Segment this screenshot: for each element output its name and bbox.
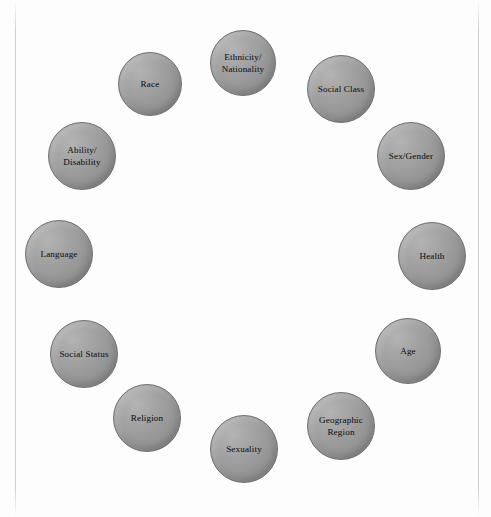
identity-node-label: Social Class	[315, 83, 368, 95]
identity-node-label: Religion	[128, 412, 167, 424]
bottom-dotted-rule	[12, 502, 478, 507]
identity-node-race[interactable]: Race	[118, 52, 182, 116]
identity-node-social-class[interactable]: Social Class	[307, 55, 375, 123]
identity-node-sexuality[interactable]: Sexuality	[210, 415, 278, 483]
identity-node-social-status[interactable]: Social Status	[50, 320, 118, 388]
identity-node-sex-gender[interactable]: Sex/Gender	[377, 122, 445, 190]
identity-node-label: Age	[397, 345, 419, 357]
identity-node-label: Language	[37, 248, 80, 260]
identity-node-age[interactable]: Age	[375, 318, 441, 384]
identity-node-health[interactable]: Health	[398, 222, 466, 290]
identity-node-geographic-region[interactable]: Geographic Region	[307, 392, 375, 460]
identity-node-ability-disability[interactable]: Ability/ Disability	[48, 122, 116, 190]
identity-node-language[interactable]: Language	[25, 220, 93, 288]
diagram-canvas: Ethnicity/ NationalitySocial ClassSex/Ge…	[0, 0, 491, 517]
identity-node-label: Ability/ Disability	[60, 144, 103, 168]
identity-node-label: Health	[416, 250, 447, 262]
identity-node-label: Race	[138, 78, 163, 90]
identity-node-label: Geographic Region	[316, 414, 366, 438]
identity-node-religion[interactable]: Religion	[113, 384, 181, 452]
identity-node-label: Social Status	[56, 348, 111, 360]
identity-node-label: Sexuality	[223, 443, 265, 455]
page-right-edge-line	[478, 0, 479, 517]
page-left-edge-line	[15, 0, 16, 517]
identity-node-ethnicity-nationality[interactable]: Ethnicity/ Nationality	[210, 30, 276, 96]
identity-node-label: Sex/Gender	[386, 150, 436, 162]
identity-node-label: Ethnicity/ Nationality	[219, 51, 268, 75]
